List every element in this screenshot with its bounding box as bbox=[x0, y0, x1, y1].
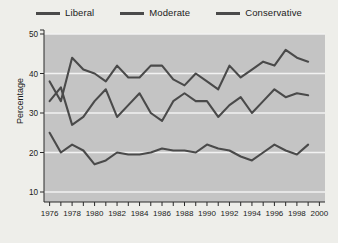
x-tick-label: 1988 bbox=[176, 209, 194, 218]
x-tick-label: 1994 bbox=[243, 209, 261, 218]
y-tick-label: 20 bbox=[29, 149, 39, 158]
x-tick-label: 1980 bbox=[86, 209, 104, 218]
y-tick-label: 30 bbox=[29, 109, 39, 118]
y-tick-label: 10 bbox=[29, 188, 39, 197]
plot-area-background bbox=[44, 34, 325, 202]
x-tick-label: 1978 bbox=[63, 209, 81, 218]
x-tick-label: 1976 bbox=[41, 209, 59, 218]
x-tick-label: 1982 bbox=[108, 209, 126, 218]
x-tick-label: 1996 bbox=[266, 209, 284, 218]
x-tick-label: 1990 bbox=[198, 209, 216, 218]
x-tick-label: 1992 bbox=[221, 209, 239, 218]
x-tick-label: 1986 bbox=[153, 209, 171, 218]
line-chart: Liberal Moderate Conservative Percentage… bbox=[0, 0, 338, 243]
x-tick-label: 1998 bbox=[288, 209, 306, 218]
y-axis: 1020304050 bbox=[29, 30, 44, 202]
y-tick-label: 50 bbox=[29, 30, 39, 39]
x-tick-label: 1984 bbox=[131, 209, 149, 218]
x-tick-label: 2000 bbox=[310, 209, 328, 218]
y-tick-label: 40 bbox=[29, 70, 39, 79]
chart-svg: 1020304050 19761978198019821984198619881… bbox=[0, 0, 338, 243]
x-axis: 1976197819801982198419861988199019921994… bbox=[41, 202, 329, 218]
